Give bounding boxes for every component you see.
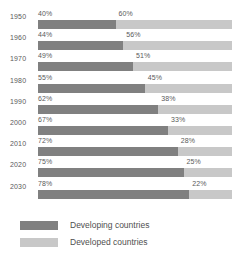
- row-value-labels: 55%45%: [38, 74, 232, 84]
- stacked-bar: [38, 105, 232, 114]
- row-value-labels: 78%22%: [38, 180, 232, 190]
- row-year-label: 2010: [10, 140, 36, 147]
- stacked-bar: [38, 20, 232, 29]
- row-value-labels: 62%38%: [38, 95, 232, 105]
- bar-segment-developing: [38, 41, 123, 50]
- row-year-label: 1970: [10, 55, 36, 62]
- stacked-bar: [38, 126, 232, 135]
- bar-segment-developed: [158, 105, 232, 114]
- developing-value-label: 44%: [38, 31, 52, 38]
- bar-segment-developing: [38, 62, 133, 71]
- bar-segment-developed: [168, 126, 232, 135]
- developed-value-label: 60%: [119, 10, 133, 17]
- row-bar-area: 67%33%: [38, 116, 232, 137]
- chart-row: 198055%45%: [0, 74, 240, 95]
- legend-item-label: Developing countries: [70, 220, 149, 230]
- row-year-label: 1960: [10, 34, 36, 41]
- bar-segment-developed: [184, 168, 233, 177]
- stacked-bar: [38, 62, 232, 71]
- row-bar-area: 62%38%: [38, 95, 232, 116]
- chart-row: 199062%38%: [0, 95, 240, 116]
- legend-item[interactable]: Developed countries: [20, 235, 149, 249]
- row-year-label: 1980: [10, 77, 36, 84]
- row-bar-area: 78%22%: [38, 180, 232, 201]
- chart-legend: Developing countriesDeveloped countries: [20, 218, 149, 252]
- developed-value-label: 45%: [148, 74, 162, 81]
- developed-value-label: 56%: [126, 31, 140, 38]
- row-year-label: 1990: [10, 98, 36, 105]
- legend-item-label: Developed countries: [70, 237, 148, 247]
- developed-value-label: 33%: [171, 116, 185, 123]
- bar-segment-developing: [38, 84, 145, 93]
- developing-value-label: 62%: [38, 95, 52, 102]
- row-value-labels: 75%25%: [38, 158, 232, 168]
- row-year-label: 2020: [10, 161, 36, 168]
- bar-segment-developed: [116, 20, 232, 29]
- bar-segment-developed: [145, 84, 232, 93]
- bar-segment-developing: [38, 126, 168, 135]
- chart-plot-area: 195040%60%196044%56%197049%51%198055%45%…: [0, 10, 240, 201]
- stacked-bar: [38, 84, 232, 93]
- row-bar-area: 72%28%: [38, 137, 232, 158]
- bar-segment-developing: [38, 168, 184, 177]
- chart-row: 201072%28%: [0, 137, 240, 158]
- developing-value-label: 67%: [38, 116, 52, 123]
- bar-segment-developed: [123, 41, 232, 50]
- row-bar-area: 49%51%: [38, 52, 232, 73]
- bar-segment-developed: [178, 147, 232, 156]
- row-value-labels: 44%56%: [38, 31, 232, 41]
- developing-value-label: 75%: [38, 158, 52, 165]
- bar-segment-developing: [38, 20, 116, 29]
- developed-value-label: 51%: [136, 52, 150, 59]
- developed-value-label: 28%: [181, 137, 195, 144]
- row-bar-area: 55%45%: [38, 74, 232, 95]
- legend-item[interactable]: Developing countries: [20, 218, 149, 232]
- chart-row: 203078%22%: [0, 180, 240, 201]
- row-year-label: 2030: [10, 183, 36, 190]
- developing-value-label: 49%: [38, 52, 52, 59]
- row-year-label: 2000: [10, 119, 36, 126]
- stacked-bar-chart: 195040%60%196044%56%197049%51%198055%45%…: [0, 0, 240, 256]
- developing-value-label: 72%: [38, 137, 52, 144]
- developed-value-label: 22%: [192, 180, 206, 187]
- chart-row: 200067%33%: [0, 116, 240, 137]
- developed-value-label: 38%: [161, 95, 175, 102]
- row-value-labels: 49%51%: [38, 52, 232, 62]
- row-bar-area: 40%60%: [38, 10, 232, 31]
- chart-row: 196044%56%: [0, 31, 240, 52]
- chart-row: 195040%60%: [0, 10, 240, 31]
- row-year-label: 1950: [10, 13, 36, 20]
- legend-swatch-icon: [20, 238, 58, 247]
- chart-row: 197049%51%: [0, 52, 240, 73]
- legend-swatch-icon: [20, 221, 58, 230]
- stacked-bar: [38, 147, 232, 156]
- row-value-labels: 72%28%: [38, 137, 232, 147]
- chart-row: 202075%25%: [0, 158, 240, 179]
- bar-segment-developed: [189, 190, 232, 199]
- row-value-labels: 40%60%: [38, 10, 232, 20]
- row-bar-area: 44%56%: [38, 31, 232, 52]
- stacked-bar: [38, 168, 232, 177]
- developing-value-label: 40%: [38, 10, 52, 17]
- row-value-labels: 67%33%: [38, 116, 232, 126]
- bar-segment-developing: [38, 147, 178, 156]
- developing-value-label: 78%: [38, 180, 52, 187]
- row-bar-area: 75%25%: [38, 158, 232, 179]
- stacked-bar: [38, 41, 232, 50]
- stacked-bar: [38, 190, 232, 199]
- bar-segment-developed: [133, 62, 232, 71]
- bar-segment-developing: [38, 190, 189, 199]
- bar-segment-developing: [38, 105, 158, 114]
- developing-value-label: 55%: [38, 74, 52, 81]
- developed-value-label: 25%: [187, 158, 201, 165]
